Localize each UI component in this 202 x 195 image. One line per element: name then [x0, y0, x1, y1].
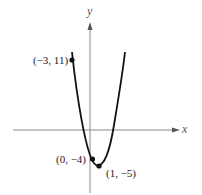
point-label-neg3-11: (−3, 11)	[33, 55, 68, 66]
y-axis-arrow-icon	[88, 22, 93, 30]
point-label-1-neg5: (1, −5)	[106, 168, 136, 179]
y-axis-label: y	[87, 5, 92, 17]
x-axis-label: x	[182, 123, 187, 135]
x-axis-arrow-icon	[172, 128, 180, 133]
point-1-neg5	[96, 163, 101, 168]
point-0-neg4	[90, 156, 95, 161]
point-label-0-neg4: (0, −4)	[56, 154, 86, 165]
point-neg3-11	[69, 57, 74, 62]
parabola-curve	[72, 52, 125, 166]
graph-canvas	[0, 0, 202, 195]
